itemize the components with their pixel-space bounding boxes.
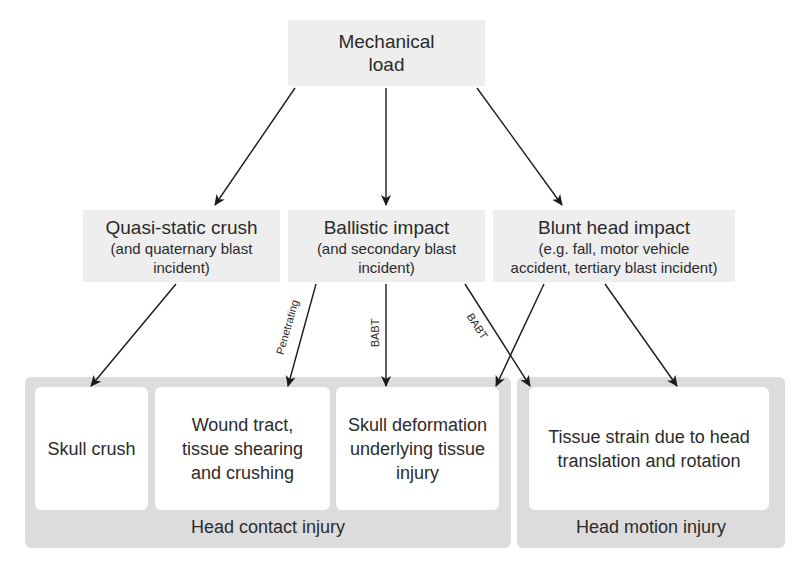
edge-label-babt-vertical: BABT	[369, 319, 381, 348]
arrow-blunt-to-tissue-strain	[605, 284, 677, 386]
arrow-quasi-to-skull-crush	[91, 284, 176, 386]
arrows-layer	[0, 0, 807, 582]
arrow-load-to-blunt	[477, 88, 562, 205]
arrow-load-to-quasi	[215, 88, 295, 205]
